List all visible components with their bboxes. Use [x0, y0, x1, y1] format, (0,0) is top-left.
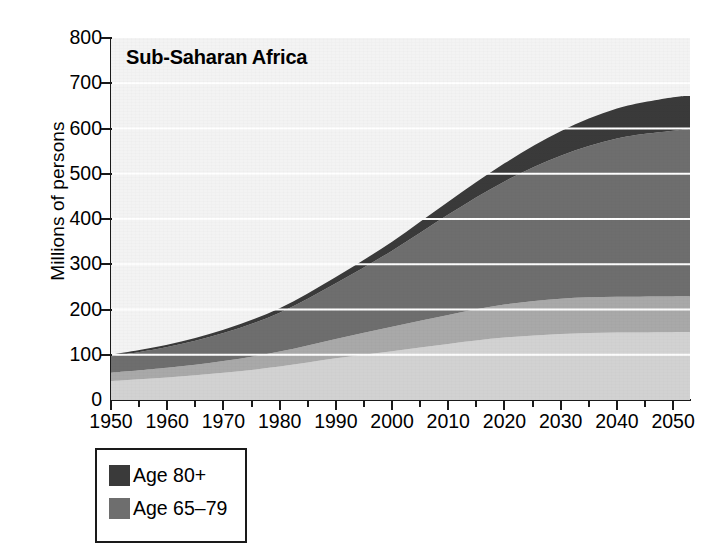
- y-tick-label: 200: [40, 300, 102, 320]
- y-tick-mark: [101, 173, 112, 175]
- x-tick-mark-major: [166, 401, 168, 410]
- plot-area: [111, 38, 690, 400]
- chart-legend: Age 80+ Age 65–79: [95, 448, 247, 543]
- x-axis-tick-labels: 1950196019701980199020002010202020302040…: [0, 412, 721, 440]
- x-tick-mark-minor: [532, 401, 534, 407]
- x-tick-mark-major: [447, 401, 449, 410]
- y-tick-label: 600: [40, 119, 102, 139]
- y-axis-tick-labels: 8007006005004003002001000: [40, 0, 102, 521]
- x-tick-mark-minor: [138, 401, 140, 407]
- stacked-area-series: [111, 38, 690, 400]
- legend-item-age-80-plus: Age 80+: [109, 459, 245, 492]
- x-tick-mark-minor: [363, 401, 365, 407]
- legend-item-age-65-79: Age 65–79: [109, 492, 245, 525]
- y-tick-label: 0: [40, 390, 102, 410]
- x-tick-mark-major: [560, 401, 562, 410]
- x-tick-mark-minor: [307, 401, 309, 407]
- x-tick-mark-major: [279, 401, 281, 410]
- x-tick-mark-major: [616, 401, 618, 410]
- x-tick-mark-minor: [644, 401, 646, 407]
- y-tick-mark: [101, 37, 112, 39]
- x-tick-mark-major: [672, 401, 674, 410]
- y-tick-label: 100: [40, 345, 102, 365]
- x-tick-mark-minor: [194, 401, 196, 407]
- x-tick-mark-minor: [475, 401, 477, 407]
- x-tick-mark-minor: [251, 401, 253, 407]
- x-tick-mark-major: [391, 401, 393, 410]
- y-tick-label: 500: [40, 164, 102, 184]
- y-tick-label: 400: [40, 209, 102, 229]
- y-tick-mark: [101, 82, 112, 84]
- x-tick-mark-minor: [588, 401, 590, 407]
- x-tick-mark-minor: [419, 401, 421, 407]
- chart-title: Sub-Saharan Africa: [126, 46, 307, 69]
- x-tick-label: 2050: [633, 412, 713, 432]
- y-tick-mark: [101, 128, 112, 130]
- y-tick-label: 800: [40, 28, 102, 48]
- y-tick-mark: [101, 354, 112, 356]
- y-tick-mark: [101, 218, 112, 220]
- x-tick-mark-major: [335, 401, 337, 410]
- legend-swatch-age-80-plus-icon: [109, 465, 130, 486]
- y-tick-label: 700: [40, 73, 102, 93]
- x-tick-mark-major: [503, 401, 505, 410]
- y-tick-mark: [101, 309, 112, 311]
- legend-label-age-80-plus: Age 80+: [133, 466, 206, 486]
- legend-label-age-65-79: Age 65–79: [133, 499, 227, 519]
- x-tick-mark-major: [110, 401, 112, 410]
- y-tick-label: 300: [40, 254, 102, 274]
- x-tick-mark-major: [222, 401, 224, 410]
- y-tick-mark: [101, 263, 112, 265]
- legend-swatch-age-65-79-icon: [109, 498, 130, 519]
